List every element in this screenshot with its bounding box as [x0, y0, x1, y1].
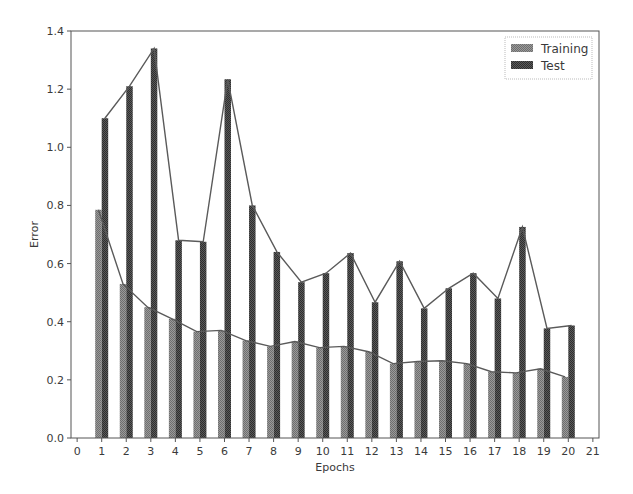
bar-training-epoch-13: [390, 364, 397, 438]
error-chart: 0.00.20.40.60.81.01.21.4 012345678910111…: [0, 0, 633, 494]
bar-training-epoch-4: [169, 319, 176, 438]
bar-test-epoch-4: [175, 240, 182, 438]
bar-test-epoch-17: [495, 298, 502, 438]
y-tick-label: 0.6: [47, 258, 65, 271]
bar-test-epoch-5: [200, 242, 207, 438]
legend: Training Test: [505, 37, 592, 79]
y-axis: 0.00.20.40.60.81.01.21.4: [47, 25, 72, 445]
x-tick-label: 3: [147, 445, 154, 458]
bar-training-epoch-2: [120, 284, 127, 438]
y-tick-label: 0.8: [47, 199, 65, 212]
x-tick-label: 7: [246, 445, 253, 458]
x-tick-label: 13: [389, 445, 403, 458]
legend-swatch-training: [511, 44, 533, 52]
x-tick-label: 17: [488, 445, 502, 458]
bar-training-epoch-5: [193, 332, 200, 438]
bar-test-epoch-16: [470, 273, 477, 438]
y-tick-label: 1.0: [47, 141, 65, 154]
x-axis-label: Epochs: [315, 461, 355, 474]
bar-test-epoch-20: [568, 325, 575, 438]
bar-test-epoch-14: [421, 308, 428, 438]
y-tick-label: 1.2: [47, 83, 65, 96]
y-tick-label: 1.4: [47, 25, 65, 38]
x-tick-label: 8: [270, 445, 277, 458]
x-tick-label: 11: [340, 445, 354, 458]
legend-swatch-test: [511, 61, 533, 69]
x-tick-label: 2: [123, 445, 130, 458]
bar-training-epoch-11: [341, 346, 348, 438]
y-tick-label: 0.2: [47, 374, 65, 387]
bar-training-epoch-8: [267, 346, 274, 438]
bar-test-epoch-9: [298, 282, 305, 438]
x-tick-label: 14: [414, 445, 428, 458]
bar-training-epoch-14: [414, 362, 421, 438]
bar-test-epoch-18: [519, 227, 526, 438]
bar-test-epoch-10: [323, 273, 330, 438]
x-tick-label: 20: [561, 445, 575, 458]
legend-label-test: Test: [540, 59, 565, 73]
x-tick-label: 15: [439, 445, 453, 458]
x-tick-label: 0: [74, 445, 81, 458]
bar-test-epoch-11: [347, 253, 354, 438]
bar-test-epoch-13: [396, 261, 403, 438]
bar-training-epoch-12: [365, 352, 372, 438]
bar-training-epoch-18: [513, 373, 520, 438]
bar-test-epoch-7: [249, 205, 256, 438]
bar-test-epoch-6: [224, 79, 231, 438]
bar-test-epoch-2: [126, 86, 133, 438]
x-tick-label: 18: [512, 445, 526, 458]
x-tick-label: 21: [586, 445, 600, 458]
y-tick-label: 0.4: [47, 316, 65, 329]
x-tick-label: 6: [221, 445, 228, 458]
bar-training-epoch-17: [488, 372, 495, 438]
line-test: [105, 48, 572, 328]
bar-training-epoch-9: [292, 341, 299, 438]
bar-test-epoch-3: [151, 48, 158, 438]
bars-layer: [95, 48, 575, 438]
legend-label-training: Training: [540, 42, 588, 56]
bar-test-epoch-19: [544, 328, 551, 438]
y-axis-label: Error: [28, 221, 41, 248]
bar-training-epoch-10: [316, 348, 323, 438]
bar-training-epoch-7: [243, 341, 250, 438]
x-tick-label: 10: [316, 445, 330, 458]
x-tick-label: 12: [365, 445, 379, 458]
x-tick-label: 5: [196, 445, 203, 458]
x-tick-label: 16: [463, 445, 477, 458]
x-tick-label: 19: [537, 445, 551, 458]
bar-test-epoch-1: [102, 118, 109, 438]
x-tick-label: 9: [295, 445, 302, 458]
y-tick-label: 0.0: [47, 432, 65, 445]
bar-test-epoch-12: [372, 302, 379, 438]
x-tick-label: 4: [172, 445, 179, 458]
bar-training-epoch-1: [95, 210, 102, 438]
bar-training-epoch-19: [537, 369, 544, 438]
bar-test-epoch-15: [446, 288, 453, 438]
bar-training-epoch-16: [464, 364, 471, 438]
bar-training-epoch-15: [439, 361, 446, 438]
x-tick-label: 1: [98, 445, 105, 458]
bar-training-epoch-20: [562, 377, 569, 438]
bar-training-epoch-6: [218, 330, 225, 438]
bar-training-epoch-3: [144, 307, 151, 438]
x-axis: 0123456789101112131415161718192021: [74, 438, 600, 458]
